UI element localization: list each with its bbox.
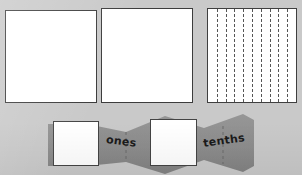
strip-white-square-tenths — [150, 119, 197, 166]
worksheet-canvas: ones tenths — [0, 0, 302, 175]
tenths-division-line-9 — [287, 9, 288, 102]
tenths-division-line-2 — [226, 9, 227, 102]
accordion-strip: ones tenths — [48, 114, 254, 174]
tenths-division-line-5 — [252, 9, 253, 102]
unit-square-blank-2 — [101, 8, 193, 103]
unit-square-tenths — [207, 8, 297, 103]
tenths-division-line-8 — [278, 9, 279, 102]
unit-square-blank-1 — [5, 10, 97, 103]
tenths-division-line-6 — [261, 9, 262, 102]
strip-white-square-ones — [53, 121, 99, 166]
tenths-division-line-4 — [243, 9, 244, 102]
tenths-division-line-7 — [270, 9, 271, 102]
tenths-division-line-1 — [217, 9, 218, 102]
tenths-division-line-3 — [234, 9, 235, 102]
